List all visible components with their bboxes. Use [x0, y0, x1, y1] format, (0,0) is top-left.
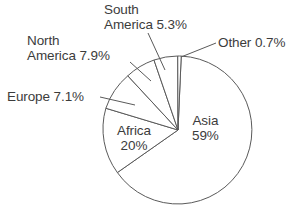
pie-label-africa-line2: 20%: [121, 138, 148, 153]
pie-label-south-america: SouthAmerica 5.3%: [104, 2, 187, 32]
leader-line-other: [181, 43, 216, 57]
pie-label-europe: Europe 7.1%: [7, 89, 84, 104]
pie-label-africa: Africa20%: [117, 123, 151, 153]
pie-label-other-line1: Other 0.7%: [218, 35, 285, 50]
pie-label-other: Other 0.7%: [218, 35, 285, 50]
pie-label-asia-line2: 59%: [192, 128, 219, 143]
pie-label-south-america-line1: South: [104, 2, 139, 17]
pie-label-africa-line1: Africa: [117, 123, 151, 138]
pie-label-south-america-line2: America 5.3%: [104, 17, 187, 32]
pie-chart: SouthAmerica 5.3% Other 0.7% NorthAmeric…: [0, 0, 298, 217]
pie-label-north-america-line2: America 7.9%: [27, 48, 110, 63]
pie-label-europe-line1: Europe 7.1%: [7, 89, 84, 104]
pie-label-asia-line1: Asia: [192, 113, 218, 128]
pie-label-north-america: NorthAmerica 7.9%: [27, 33, 110, 63]
pie-label-asia: Asia59%: [192, 113, 219, 143]
pie-label-north-america-line1: North: [27, 33, 60, 48]
